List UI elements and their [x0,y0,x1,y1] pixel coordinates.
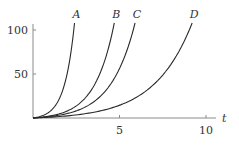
x-tick-label: 5 [116,124,123,137]
y-tick-label: 100 [7,24,28,37]
x-axis-label: t [222,112,227,125]
curves [33,23,192,118]
curve-labels: ABCD [72,8,199,21]
curve-label-a: A [72,8,81,21]
curve-label-c: C [133,8,142,21]
curve-a [33,23,75,118]
x-tick-label: 10 [199,124,213,137]
curve-b [33,23,114,118]
curve-label-b: B [111,8,120,21]
curve-label-d: D [189,8,199,21]
curve-c [33,23,135,118]
exponential-growth-chart: 51050100 ABCD t [0,0,239,148]
y-tick-label: 50 [14,68,28,81]
